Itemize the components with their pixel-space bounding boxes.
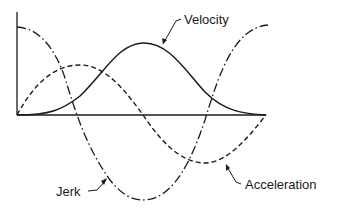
motion-diagram: Velocity Acceleration Jerk (0, 0, 338, 214)
velocity-curve (17, 43, 266, 115)
jerk-label: Jerk (56, 184, 81, 199)
acceleration-curve (17, 65, 266, 163)
acceleration-label: Acceleration (245, 177, 317, 192)
jerk-curve (17, 25, 268, 200)
velocity-label: Velocity (184, 12, 229, 27)
